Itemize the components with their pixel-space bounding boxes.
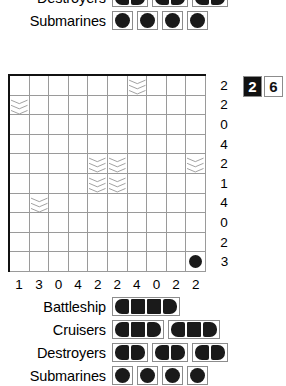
grid-cell-r9c1[interactable] bbox=[9, 232, 29, 252]
grid-cell-r4c10[interactable] bbox=[186, 134, 206, 154]
grid-cell-r10c6[interactable] bbox=[107, 252, 127, 272]
grid-cell-r4c8[interactable] bbox=[147, 134, 167, 154]
fleet-ship-cruisers-1[interactable] bbox=[112, 320, 164, 339]
grid-cell-r5c7[interactable] bbox=[127, 154, 147, 174]
grid-cell-r5c9[interactable] bbox=[166, 154, 186, 174]
grid-cell-r1c8[interactable] bbox=[147, 75, 167, 95]
fleet-ship-submarines-3[interactable] bbox=[162, 366, 183, 385]
grid-cell-r6c10[interactable] bbox=[186, 173, 206, 193]
grid-cell-r8c6[interactable] bbox=[107, 213, 127, 233]
fleet-ship-submarines-4[interactable] bbox=[187, 11, 208, 30]
grid-cell-r5c4[interactable] bbox=[68, 154, 88, 174]
grid-cell-r6c5[interactable] bbox=[88, 173, 108, 193]
grid-cell-r9c8[interactable] bbox=[147, 232, 167, 252]
grid-cell-r4c1[interactable] bbox=[9, 134, 29, 154]
grid-cell-r2c6[interactable] bbox=[107, 95, 127, 115]
fleet-ship-submarines-2[interactable] bbox=[137, 11, 158, 30]
grid-cell-r7c6[interactable] bbox=[107, 193, 127, 213]
grid-cell-r1c10[interactable] bbox=[186, 75, 206, 95]
grid-cell-r9c5[interactable] bbox=[88, 232, 108, 252]
grid-cell-r1c3[interactable] bbox=[49, 75, 69, 95]
grid-cell-r5c5[interactable] bbox=[88, 154, 108, 174]
grid-cell-r10c5[interactable] bbox=[88, 252, 108, 272]
fleet-ship-destroyers-1[interactable] bbox=[112, 343, 148, 362]
battleship-grid[interactable]: 22042140231304224022 bbox=[8, 74, 237, 295]
grid-cell-r9c9[interactable] bbox=[166, 232, 186, 252]
grid-cell-r1c9[interactable] bbox=[166, 75, 186, 95]
grid-cell-r7c3[interactable] bbox=[49, 193, 69, 213]
grid-cell-r10c7[interactable] bbox=[127, 252, 147, 272]
grid-cell-r7c10[interactable] bbox=[186, 193, 206, 213]
grid-cell-r6c3[interactable] bbox=[49, 173, 69, 193]
grid-cell-r3c9[interactable] bbox=[166, 115, 186, 135]
grid-cell-r1c2[interactable] bbox=[29, 75, 49, 95]
grid-cell-r5c3[interactable] bbox=[49, 154, 69, 174]
grid-cell-r6c9[interactable] bbox=[166, 173, 186, 193]
grid-cell-r8c10[interactable] bbox=[186, 213, 206, 233]
grid-cell-r2c8[interactable] bbox=[147, 95, 167, 115]
grid-cell-r10c2[interactable] bbox=[29, 252, 49, 272]
grid-cell-r1c1[interactable] bbox=[9, 75, 29, 95]
grid-cell-r10c9[interactable] bbox=[166, 252, 186, 272]
fleet-ship-submarines-2[interactable] bbox=[137, 366, 158, 385]
grid-cell-r8c4[interactable] bbox=[68, 213, 88, 233]
grid-cell-r6c2[interactable] bbox=[29, 173, 49, 193]
grid-cell-r10c10[interactable] bbox=[186, 252, 206, 272]
grid-cell-r1c5[interactable] bbox=[88, 75, 108, 95]
grid-cell-r4c6[interactable] bbox=[107, 134, 127, 154]
fleet-ship-destroyers-2[interactable] bbox=[152, 343, 188, 362]
grid-cell-r10c8[interactable] bbox=[147, 252, 167, 272]
grid-cell-r5c8[interactable] bbox=[147, 154, 167, 174]
grid-cell-r4c4[interactable] bbox=[68, 134, 88, 154]
grid-cell-r9c6[interactable] bbox=[107, 232, 127, 252]
grid-cell-r2c10[interactable] bbox=[186, 95, 206, 115]
grid-cell-r3c1[interactable] bbox=[9, 115, 29, 135]
grid-cell-r4c7[interactable] bbox=[127, 134, 147, 154]
grid-cell-r7c1[interactable] bbox=[9, 193, 29, 213]
grid-cell-r3c10[interactable] bbox=[186, 115, 206, 135]
grid-cell-r6c7[interactable] bbox=[127, 173, 147, 193]
grid-cell-r9c10[interactable] bbox=[186, 232, 206, 252]
grid-cell-r7c9[interactable] bbox=[166, 193, 186, 213]
grid-cell-r8c5[interactable] bbox=[88, 213, 108, 233]
grid-cell-r8c2[interactable] bbox=[29, 213, 49, 233]
grid-cell-r2c7[interactable] bbox=[127, 95, 147, 115]
grid-cell-r6c1[interactable] bbox=[9, 173, 29, 193]
fleet-ship-submarines-1[interactable] bbox=[112, 11, 133, 30]
fleet-ship-submarines-3[interactable] bbox=[162, 11, 183, 30]
grid-cell-r4c9[interactable] bbox=[166, 134, 186, 154]
grid-cell-r5c1[interactable] bbox=[9, 154, 29, 174]
grid-cell-r6c8[interactable] bbox=[147, 173, 167, 193]
grid-cell-r2c4[interactable] bbox=[68, 95, 88, 115]
grid-cell-r8c1[interactable] bbox=[9, 213, 29, 233]
grid-cell-r6c4[interactable] bbox=[68, 173, 88, 193]
fleet-ship-submarines-1[interactable] bbox=[112, 366, 133, 385]
grid-cell-r2c9[interactable] bbox=[166, 95, 186, 115]
grid-cell-r10c3[interactable] bbox=[49, 252, 69, 272]
grid-cell-r10c1[interactable] bbox=[9, 252, 29, 272]
grid-cell-r5c10[interactable] bbox=[186, 154, 206, 174]
grid-cell-r9c3[interactable] bbox=[49, 232, 69, 252]
grid-cell-r8c3[interactable] bbox=[49, 213, 69, 233]
grid-cell-r9c7[interactable] bbox=[127, 232, 147, 252]
grid-cell-r8c8[interactable] bbox=[147, 213, 167, 233]
grid-cell-r3c6[interactable] bbox=[107, 115, 127, 135]
grid-cell-r7c7[interactable] bbox=[127, 193, 147, 213]
grid-cell-r9c2[interactable] bbox=[29, 232, 49, 252]
fleet-ship-destroyers-3[interactable] bbox=[192, 343, 228, 362]
fleet-ship-destroyers-1[interactable] bbox=[112, 0, 148, 7]
grid-cell-r6c6[interactable] bbox=[107, 173, 127, 193]
grid-cell-r2c1[interactable] bbox=[9, 95, 29, 115]
grid-cell-r2c2[interactable] bbox=[29, 95, 49, 115]
fleet-ship-destroyers-3[interactable] bbox=[192, 0, 228, 7]
grid-cell-r7c2[interactable] bbox=[29, 193, 49, 213]
grid-cell-r3c7[interactable] bbox=[127, 115, 147, 135]
fleet-ship-submarines-4[interactable] bbox=[187, 366, 208, 385]
grid-cell-r3c4[interactable] bbox=[68, 115, 88, 135]
grid-cell-r2c5[interactable] bbox=[88, 95, 108, 115]
grid-cell-r1c7[interactable] bbox=[127, 75, 147, 95]
grid-cell-r5c2[interactable] bbox=[29, 154, 49, 174]
grid-cell-r3c2[interactable] bbox=[29, 115, 49, 135]
grid-cell-r7c8[interactable] bbox=[147, 193, 167, 213]
grid-cell-r7c4[interactable] bbox=[68, 193, 88, 213]
